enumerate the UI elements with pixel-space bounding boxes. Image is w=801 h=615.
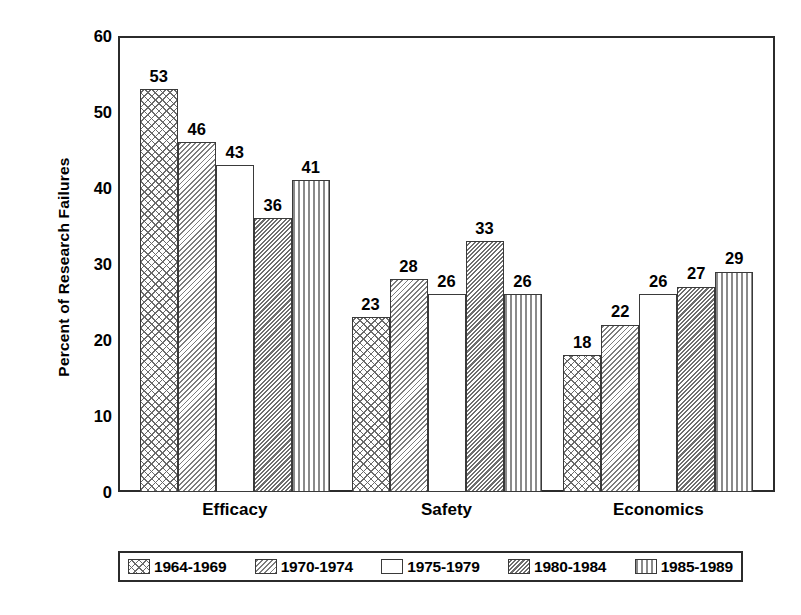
legend-label: 1980-1984 [534,558,606,576]
legend-label: 1975-1979 [407,558,479,576]
y-tick-label: 20 [66,332,112,349]
y-axis-tick-labels: 6050403020100 [56,0,112,615]
x-category-label: Efficacy [202,500,267,520]
y-tick-label: 40 [66,180,112,197]
x-axis-category-labels: EfficacySafetyEconomics [118,500,775,530]
legend-item[interactable]: 1985-1989 [635,558,733,576]
y-tick-label: 60 [66,28,112,45]
legend-label: 1964-1969 [154,558,226,576]
legend-label: 1970-1974 [281,558,353,576]
legend-swatch [128,559,150,574]
bar-chart-figure: Percent of Research Failures 60504030201… [0,0,801,615]
chart-legend: 1964-19691970-19741975-19791980-19841985… [118,551,743,582]
legend-swatch [255,559,277,574]
legend-item[interactable]: 1964-1969 [128,558,226,576]
legend-item[interactable]: 1980-1984 [508,558,606,576]
y-tick-label: 50 [66,104,112,121]
y-tick-label: 0 [66,484,112,501]
legend-swatch [508,559,530,574]
legend-swatch [635,559,657,574]
x-category-label: Safety [421,500,472,520]
legend-item[interactable]: 1975-1979 [381,558,479,576]
y-tick-label: 30 [66,256,112,273]
legend-item[interactable]: 1970-1974 [255,558,353,576]
x-category-label: Economics [613,500,704,520]
plot-area [118,36,775,492]
legend-label: 1985-1989 [661,558,733,576]
y-tick-label: 10 [66,408,112,425]
legend-swatch [381,559,403,574]
